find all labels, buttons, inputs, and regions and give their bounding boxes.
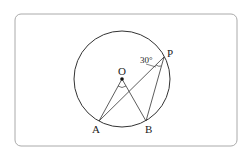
angle-label: 30° bbox=[140, 55, 153, 65]
geometry-diagram: O A B P 30° bbox=[0, 0, 250, 154]
label-A: A bbox=[92, 123, 100, 135]
label-B: B bbox=[145, 123, 152, 135]
label-O: O bbox=[118, 65, 126, 77]
center-point bbox=[120, 77, 124, 81]
label-P: P bbox=[167, 47, 173, 59]
frame bbox=[15, 14, 237, 146]
